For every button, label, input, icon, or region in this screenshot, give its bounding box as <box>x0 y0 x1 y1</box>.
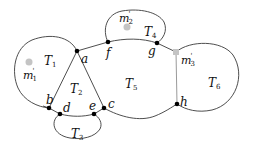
label-b: b <box>46 93 54 107</box>
vertex-c <box>102 106 107 111</box>
mark-label-m2: m'2 <box>119 10 133 26</box>
label-f: f <box>105 46 113 60</box>
region-label-T4: T4 <box>144 25 157 40</box>
vertex-d <box>58 112 63 117</box>
label-a: a <box>81 52 88 66</box>
label-d: d <box>63 101 71 115</box>
mark-label-m1: m'1 <box>23 67 37 83</box>
edge-c-h <box>104 104 177 119</box>
vertex-f <box>106 40 111 45</box>
vertex-a <box>75 49 80 54</box>
mark-label-m3: m'3 <box>181 52 195 68</box>
region-label-T3: T3 <box>71 127 83 142</box>
region-label-T2: T2 <box>70 82 82 97</box>
label-e: e <box>89 99 96 113</box>
label-h: h <box>180 95 188 109</box>
region-label-T1: T1 <box>44 54 56 69</box>
planar-graph-diagram: a f g h b d e c T1 T2 T3 T4 T5 T6 m'1 m'… <box>0 0 256 151</box>
region-label-T6: T6 <box>208 76 221 91</box>
vertex-h <box>175 102 180 107</box>
edge-m3-h <box>176 52 177 104</box>
mark-m1 <box>26 59 33 66</box>
label-g: g <box>148 44 156 58</box>
label-c: c <box>108 97 115 111</box>
region-label-T5: T5 <box>125 77 137 92</box>
edge-a-f <box>77 42 108 51</box>
mark-m3 <box>173 49 179 55</box>
edge-f-g <box>108 39 157 43</box>
